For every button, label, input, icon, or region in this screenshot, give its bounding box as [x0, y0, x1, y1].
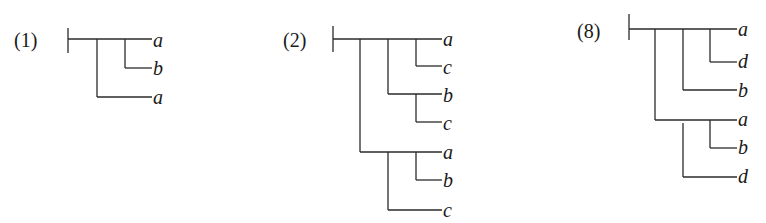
leaf-label: b	[738, 137, 748, 157]
leaf-label: d	[738, 166, 748, 186]
leaf-label: b	[738, 80, 748, 100]
tree-lines	[0, 0, 766, 223]
leaf-label: d	[738, 51, 748, 71]
leaf-label: a	[738, 109, 748, 129]
leaf-label: a	[738, 19, 748, 39]
